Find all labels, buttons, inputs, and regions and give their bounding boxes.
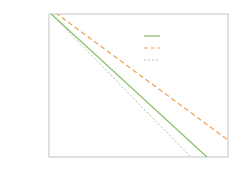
fit-line-k-minus-2-255-over-ln-k xyxy=(49,12,208,158)
fit-line-k-minus-3 xyxy=(49,12,192,158)
plot-lines xyxy=(49,8,228,158)
legend xyxy=(0,0,160,60)
chart xyxy=(0,0,236,191)
fit-line-k-minus-2-255 xyxy=(49,8,228,140)
plot-frame xyxy=(49,14,228,157)
